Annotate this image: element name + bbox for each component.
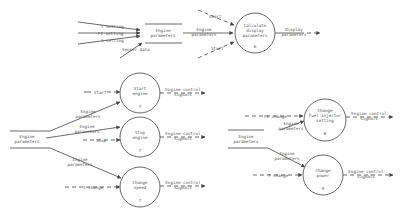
flow-start-bottom: Start [198, 42, 234, 58]
svg-text:S setting: S setting [101, 38, 124, 43]
svg-text:signals: signals [174, 136, 192, 141]
process-stop-engine: Stop engine 7 [120, 117, 160, 157]
svg-text:Start: Start [209, 14, 222, 19]
process-change-power: Change power 9 [303, 155, 343, 195]
data-store-engine-parameters-right: Engine parameters [228, 130, 264, 148]
flow-fi-setting: FI setting [78, 31, 140, 36]
svg-text:FI setting: FI setting [98, 31, 124, 36]
svg-text:setting: setting [316, 118, 334, 123]
data-store-engine-parameters-left: Engine parameters [10, 131, 46, 148]
svg-text:T change: T change [268, 173, 289, 178]
flow-engine-parameters-to-p6: Engine parameters [183, 27, 233, 37]
svg-text:Stop: Stop [96, 138, 107, 143]
flow-engine-control-signals-speed: Engine control signals [160, 180, 205, 190]
svg-text:signals: signals [357, 174, 375, 179]
svg-text:parameters: parameters [233, 139, 259, 144]
svg-text:T setting: T setting [101, 24, 124, 29]
flow-engine-control-signals-power: Engine control signals [343, 169, 393, 179]
flow-engine-parameters-to-power: Engine parameters [264, 148, 305, 167]
svg-text:parameters: parameters [281, 32, 307, 37]
svg-text:parameters: parameters [75, 114, 101, 119]
svg-text:parameters: parameters [74, 129, 100, 134]
svg-text:Sensor data: Sensor data [122, 47, 150, 52]
flow-engine-control-signals-stop: Engine control signals [160, 131, 205, 141]
svg-text:parameters: parameters [278, 126, 304, 131]
process-start-engine: Start engine 7 [120, 73, 160, 113]
svg-text:parameters: parameters [191, 32, 217, 37]
flow-fi-change: FI change [245, 114, 303, 119]
flow-start: Start [84, 90, 120, 95]
flow-s-change: S change [65, 185, 120, 190]
flow-engine-parameters-to-fi: Engine parameters [278, 121, 304, 131]
svg-text:parameters: parameters [67, 162, 93, 167]
svg-text:FI change: FI change [264, 114, 287, 119]
process-calculate-display-parameters: Calculate display parameters 6 [235, 13, 275, 53]
svg-text:parameters: parameters [14, 139, 40, 144]
svg-text:signals: signals [174, 185, 192, 190]
flow-display-parameters: Display parameters [275, 27, 320, 37]
process-change-fuel-injector-setting: Change fuel injector setting 8 [304, 99, 346, 141]
flow-engine-control-signals-start: Engine control signals [160, 87, 205, 97]
flow-engine-parameters-to-speed: Engine parameters [46, 148, 121, 178]
svg-text:parameters: parameters [274, 156, 300, 161]
svg-text:signals: signals [174, 92, 192, 97]
svg-text:power: power [317, 173, 330, 178]
flow-engine-parameters-to-stop: Engine parameters [46, 124, 120, 138]
flow-sensor-data: Sensor data [120, 43, 150, 58]
svg-text:Start: Start [211, 46, 224, 51]
process-change-speed: Change speed 7 [120, 167, 160, 207]
data-store-engine-parameters-top: Engine parameters [145, 24, 182, 43]
svg-text:engine: engine [132, 135, 148, 140]
svg-text:S change: S change [83, 185, 104, 190]
svg-text:parameters: parameters [150, 33, 176, 38]
svg-text:signals: signals [360, 116, 378, 121]
flow-engine-control-signals-fi: Engine control signals [346, 111, 393, 121]
svg-text:engine: engine [132, 91, 148, 96]
svg-text:speed: speed [134, 185, 147, 190]
flow-stop: Stop [83, 138, 120, 143]
flow-t-setting: T setting [78, 22, 140, 30]
data-flow-diagram: T setting FI setting S setting Sensor da… [0, 0, 400, 217]
svg-text:Start: Start [94, 90, 107, 95]
svg-text:parameters: parameters [242, 33, 268, 38]
flow-t-change: T change [253, 173, 302, 178]
flow-s-setting: S setting [78, 36, 140, 44]
flow-start-top: Start [198, 10, 234, 25]
